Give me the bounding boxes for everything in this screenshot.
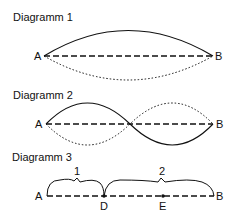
diagram-1-point-b: B [215, 51, 222, 62]
dotted-arc [44, 56, 213, 80]
diagram-3-point-a: A [35, 191, 42, 202]
diagram-3-point-e-label: E [159, 201, 166, 212]
diagram-1-title: Diagramm 1 [13, 12, 73, 23]
segment-label-2: 2 [159, 166, 165, 177]
diagram-2-point-a: A [35, 119, 42, 130]
brace-2 [104, 178, 214, 196]
diagram-2-point-b: B [216, 119, 223, 130]
diagram-1-point-a: A [34, 51, 41, 62]
diagram-2-shapes [46, 103, 213, 145]
point-e [161, 194, 165, 198]
diagram-3-point-d-label: D [100, 201, 108, 212]
point-d [102, 194, 106, 198]
segment-label-1: 1 [74, 166, 80, 177]
solid-arc [44, 31, 213, 57]
diagram-3-point-b: B [216, 191, 223, 202]
brace-1 [47, 178, 104, 196]
diagram-1-shapes [44, 31, 213, 81]
diagram-2-title: Diagramm 2 [13, 90, 73, 101]
diagram-3-shapes [47, 178, 214, 198]
diagram-3-title: Diagramm 3 [12, 152, 72, 163]
diagram-canvas [0, 0, 235, 221]
